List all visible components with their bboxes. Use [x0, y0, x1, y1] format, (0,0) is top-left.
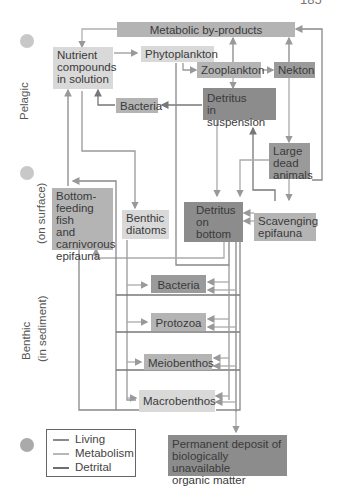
node-label-line: on [196, 216, 239, 228]
node-detritus-in-suspension: Detritus in suspension [203, 88, 276, 120]
node-label-line: Bottom- [56, 190, 109, 202]
label-in-sediment: (in sediment) [36, 296, 49, 362]
legend-swatch-detrital [53, 467, 69, 469]
label-pelagic: Pelagic [18, 82, 31, 120]
node-label-line: Nutrient [57, 49, 109, 61]
benthic-marker-dot [20, 166, 34, 180]
legend-swatch-living [53, 439, 69, 441]
node-label: Macrobenthos [143, 395, 216, 407]
legend-item-detrital: Detrital [53, 461, 111, 473]
node-label-line: compounds [57, 61, 109, 73]
node-nutrient-compounds: Nutrient compounds in solution [53, 47, 113, 89]
node-macrobenthos: Macrobenthos [139, 390, 215, 412]
node-label-line: Permanent deposit of [172, 438, 283, 450]
node-bottom-feeding-fish: Bottom- feeding fish and carnivorous epi… [52, 188, 113, 250]
node-label-line: in suspension [207, 104, 272, 128]
node-label-line: biologically unavailable [172, 450, 283, 474]
node-label: Bacteria [120, 100, 162, 112]
node-label: Metabolic by-products [150, 24, 263, 36]
node-label-line: and [56, 226, 109, 238]
node-nekton: Nekton [274, 62, 315, 78]
node-phytoplankton: Phytoplankton [141, 46, 214, 62]
page-number: 185 [300, 0, 322, 7]
node-label-line: animals [273, 169, 306, 181]
node-label-line: organic matter [172, 474, 283, 486]
node-label: Phytoplankton [145, 48, 218, 60]
node-label-line: dead [273, 157, 306, 169]
node-label: Meiobenthos [148, 357, 214, 369]
node-zooplankton: Zooplankton [197, 62, 261, 78]
node-metabolic-byproducts: Metabolic by-products [117, 22, 295, 37]
legend-label: Detrital [75, 461, 111, 473]
node-label: Nekton [278, 64, 314, 76]
node-bacteria-benthic: Bacteria [151, 275, 206, 293]
legend-swatch-metabolism [53, 453, 69, 455]
node-label-line: Detritus [196, 204, 239, 216]
node-benthic-diatoms: Benthic diatoms [122, 210, 169, 239]
legend: Living Metabolism Detrital [46, 429, 136, 477]
node-large-dead-animals: Large dead animals [269, 143, 310, 179]
legend-label: Metabolism [75, 447, 134, 459]
node-label-line: Benthic [126, 212, 165, 224]
node-label-line: bottom [196, 228, 239, 240]
node-label-line: diatoms [126, 224, 165, 236]
pelagic-marker-dot [20, 34, 34, 48]
node-label-line: in solution [57, 73, 109, 85]
node-label-line: epifauna [56, 250, 109, 262]
label-on-surface: (on surface) [35, 183, 48, 244]
node-meiobenthos: Meiobenthos [144, 354, 212, 370]
node-label-line: Scavenging [258, 215, 312, 227]
node-label-line: Large [273, 145, 306, 157]
node-label: Protozoa [155, 317, 201, 329]
node-detritus-on-bottom: Detritus on bottom [184, 202, 243, 242]
node-scavenging-epifauna: Scavenging epifauna [254, 213, 316, 241]
node-label-line: carnivorous [56, 238, 109, 250]
label-benthic: Benthic [20, 322, 33, 360]
legend-marker-dot [20, 438, 34, 452]
node-label-line: feeding fish [56, 202, 109, 226]
node-protozoa: Protozoa [151, 313, 206, 331]
legend-label: Living [75, 433, 105, 445]
node-bacteria-pelagic: Bacteria [116, 98, 158, 113]
node-label-line: epifauna [258, 227, 312, 239]
node-label: Zooplankton [201, 64, 264, 76]
node-label-line: Detritus [207, 92, 272, 104]
node-permanent-deposit: Permanent deposit of biologically unavai… [168, 435, 287, 476]
legend-item-living: Living [53, 433, 105, 445]
node-label: Bacteria [157, 279, 199, 291]
legend-item-metabolism: Metabolism [53, 447, 134, 459]
